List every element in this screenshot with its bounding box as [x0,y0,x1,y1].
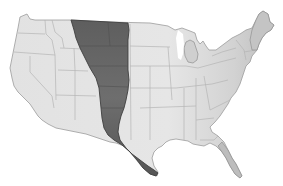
us-landmass [10,11,274,178]
us-map-container: Contiguous United States Great Plains ba… [0,0,283,186]
florida-peninsula [218,142,242,178]
us-map [0,0,283,186]
new-england [250,11,274,50]
